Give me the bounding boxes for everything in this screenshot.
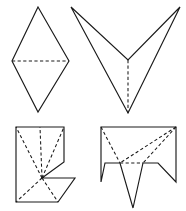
figure-top-right-chevron-net [71, 7, 180, 113]
geometric-nets-diagram [0, 0, 186, 211]
figure-board [0, 0, 186, 211]
figure-bottom-right-spiked-rectangle-net [101, 127, 176, 208]
rhombus-face [12, 7, 69, 112]
figure-bottom-left-notched-square-net [16, 127, 75, 202]
spiked-rectangle-face [101, 127, 176, 208]
figure-top-left-rhombus-net [12, 7, 69, 112]
